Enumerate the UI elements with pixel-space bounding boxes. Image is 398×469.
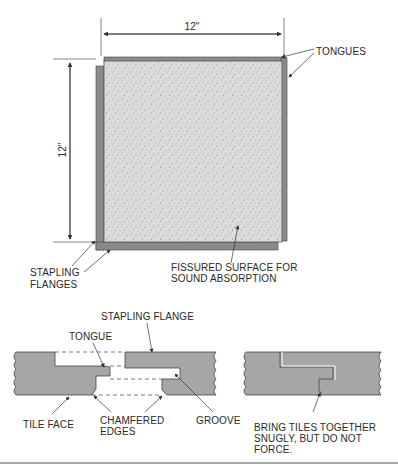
note-label-2: SNUGLY, BUT DO NOT	[254, 433, 362, 444]
note-label-1: BRING TILES TOGETHER	[254, 422, 376, 433]
tongue-label: TONGUE	[69, 331, 112, 342]
section-apart: STAPLING FLANGE TONGUE TILE FACE CHAMFER…	[14, 311, 241, 437]
height-label: 12"	[57, 142, 68, 157]
section-joined: BRING TILES TOGETHER SNUGLY, BUT DO NOT …	[244, 352, 381, 455]
tile-face	[104, 61, 282, 242]
top-view: 12" 12" TONGUES STAPLING FLANGES	[30, 18, 366, 290]
stapling-flanges-label-2: FLANGES	[30, 279, 78, 290]
chamfered-label-2: EDGES	[100, 426, 136, 437]
tongues-callout: TONGUES	[282, 46, 366, 77]
width-dimension: 12"	[101, 18, 284, 56]
tongues-label: TONGUES	[316, 46, 366, 57]
left-tile-section	[14, 352, 110, 395]
stapling-flanges-label-1: STAPLING	[30, 267, 80, 278]
surface-label-1: FISSURED SURFACE FOR	[171, 262, 297, 273]
joined-tiles-section	[244, 352, 381, 395]
right-tile-section	[125, 352, 216, 395]
left-flange	[96, 66, 104, 250]
note-label-3: FORCE.	[254, 444, 292, 455]
width-label: 12"	[185, 21, 200, 32]
surface-label-2: SOUND ABSORPTION	[171, 273, 277, 284]
chamfered-label-1: CHAMFERED	[100, 415, 164, 426]
tile-diagram: 12" 12" TONGUES STAPLING FLANGES	[0, 0, 398, 469]
groove-label: GROOVE	[196, 415, 241, 426]
bottom-flange	[96, 242, 278, 250]
height-dimension: 12"	[53, 59, 96, 242]
stapling-flange-label: STAPLING FLANGE	[101, 311, 194, 322]
tile-face-label: TILE FACE	[23, 419, 74, 430]
